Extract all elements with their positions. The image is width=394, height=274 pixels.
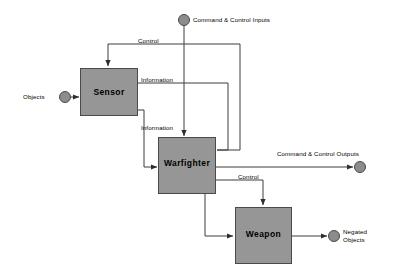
edge-label-control-to-weapon: Control (238, 173, 259, 180)
negated-objects-label-line1: Negated (343, 228, 367, 236)
cc-outputs-terminal-circle (355, 162, 366, 173)
negated-objects-terminal-label: Negated Objects (343, 228, 367, 243)
node-weapon-label: Weapon (246, 229, 281, 239)
edge-control-to-weapon (216, 180, 263, 205)
negated-objects-terminal-circle (329, 231, 340, 242)
node-weapon[interactable]: Weapon (235, 207, 292, 264)
node-sensor[interactable]: Sensor (80, 68, 138, 116)
objects-terminal-circle (60, 92, 71, 103)
edge-label-control-to-sensor: Control (138, 37, 159, 44)
node-sensor-label: Sensor (93, 87, 124, 97)
objects-terminal-label: Objects (23, 93, 45, 101)
edge-label-information-upper: Information (141, 76, 173, 83)
terminal-circles (60, 15, 366, 242)
cc-inputs-terminal-circle (179, 15, 190, 26)
diagram-canvas: Sensor Warfighter Weapon Objects Command… (0, 0, 394, 274)
edge-information-sensor-lower (138, 110, 157, 167)
negated-objects-label-line2: Objects (343, 236, 367, 244)
node-warfighter[interactable]: Warfighter (158, 137, 216, 194)
cc-inputs-terminal-label: Command & Control Inputs (193, 16, 270, 24)
edge-warfighter-to-weapon (205, 194, 233, 236)
edge-label-information-lower: Information (141, 124, 173, 131)
cc-outputs-terminal-label: Command & Control Outputs (277, 150, 359, 158)
node-warfighter-label: Warfighter (164, 158, 210, 168)
